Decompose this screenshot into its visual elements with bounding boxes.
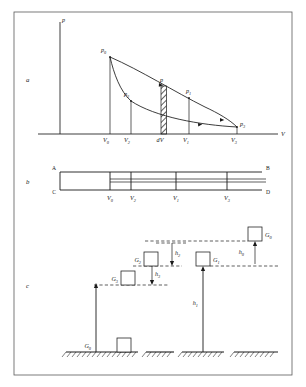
dv-strip: [161, 86, 166, 134]
weight-box-G0-top: [248, 227, 262, 241]
corner-label-D: D: [266, 189, 270, 195]
weight-box-G1: [196, 252, 210, 266]
panel-b-label: b: [26, 178, 30, 185]
figure-root: a p V p0: [0, 0, 306, 387]
point-p1: [188, 97, 190, 99]
point-p0: [109, 56, 111, 58]
weight-box-G3: [121, 271, 135, 285]
point-p2: [130, 100, 132, 102]
panel-c-label: c: [26, 282, 29, 289]
point-p3: [236, 126, 238, 128]
page-background: [0, 0, 306, 387]
figure-canvas: a p V p0: [0, 0, 306, 387]
weight-box-G0-bottom: [117, 338, 131, 352]
corner-label-A: A: [52, 165, 56, 171]
label-p: p: [159, 76, 163, 83]
svg-text:p: p: [159, 76, 163, 83]
corner-label-B: B: [266, 165, 270, 171]
weight-box-G2: [144, 252, 158, 266]
corner-label-C: C: [52, 189, 56, 195]
panel-a-y-axis-label: p: [61, 16, 65, 23]
panel-a-label: a: [26, 76, 30, 83]
